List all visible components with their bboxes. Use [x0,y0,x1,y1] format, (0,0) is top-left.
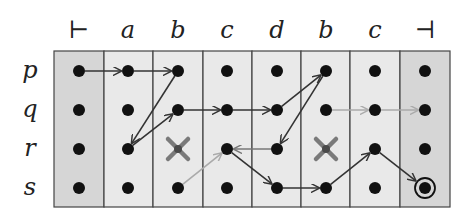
state-dot-q-0 [73,104,85,116]
state-dot-q-1 [122,104,134,116]
row-label: s [24,173,36,201]
column-label: b [318,16,333,44]
state-dot-s-0 [73,182,85,194]
state-dot-s-6 [369,182,381,194]
state-dot-s-3 [221,182,233,194]
row-label: r [24,134,37,162]
column-label: a [121,16,135,44]
column-backgrounds [54,51,450,207]
column-label: b [170,16,185,44]
state-dot-q-2 [172,104,184,116]
automaton-grid-diagram: ⊢abcdbc⊣ pqrs [0,0,473,221]
state-dot-q-6 [369,104,381,116]
state-dot-p-3 [221,65,233,77]
row-label: q [22,95,37,123]
column-label: d [269,16,284,44]
state-dot-p-2 [172,65,184,77]
row-label: p [22,56,37,84]
state-dot-q-3 [221,104,233,116]
state-dot-r-1 [122,143,134,155]
state-dot-r-4 [271,143,283,155]
state-dot-p-6 [369,65,381,77]
state-dot-r-0 [73,143,85,155]
state-dot-p-7 [419,65,431,77]
state-dot-p-4 [271,65,283,77]
row-labels: pqrs [22,56,37,201]
state-dot-r-3 [221,143,233,155]
state-dot-r-6 [369,143,381,155]
state-dot-r-7 [419,143,431,155]
state-dot-p-1 [122,65,134,77]
state-dot-q-7 [419,104,431,116]
state-dot-s-4 [271,182,283,194]
column-label: ⊣ [415,16,436,44]
column-label: c [368,16,381,44]
state-dot-s-2 [172,182,184,194]
column-label: ⊢ [69,16,90,44]
state-dot-q-5 [320,104,332,116]
diagram-canvas: ⊢abcdbc⊣ pqrs [0,0,473,221]
state-dot-q-4 [271,104,283,116]
state-dot-s-5 [320,182,332,194]
column-label: c [220,16,233,44]
column-labels: ⊢abcdbc⊣ [69,16,436,44]
state-dot-s-1 [122,182,134,194]
state-dot-p-0 [73,65,85,77]
state-dot-s-7 [419,182,431,194]
state-dot-p-5 [320,65,332,77]
